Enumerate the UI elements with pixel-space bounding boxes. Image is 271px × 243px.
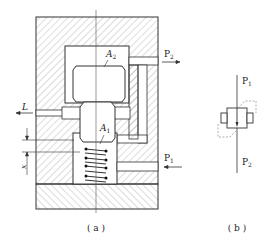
inlet-passage-p1 xyxy=(117,162,158,171)
outlet-passage-p2 xyxy=(129,57,158,65)
outlet-arrow-p2 xyxy=(162,61,180,64)
panel-a: A2 A1 L x P2 P1 ( a ) xyxy=(16,10,182,233)
valve-diagram: A2 A1 L x P2 P1 ( a ) P1 P2 ( b ) xyxy=(0,0,271,243)
label-p2-outlet: P2 xyxy=(164,49,174,60)
left-spring-box xyxy=(221,113,227,123)
inner-wall xyxy=(129,65,138,139)
label-x: x xyxy=(19,164,28,169)
right-pilot-box xyxy=(247,113,253,123)
panel-b: P1 P2 ( b ) xyxy=(218,75,256,233)
label-p1-inlet: P1 xyxy=(164,153,174,164)
caption-b: ( b ) xyxy=(228,223,247,233)
drain-passage-l xyxy=(36,110,64,116)
feedback-passage xyxy=(138,65,147,143)
label-p1-symbol: P1 xyxy=(242,76,252,87)
caption-a: ( a ) xyxy=(87,223,105,233)
end-cap xyxy=(36,184,158,209)
label-l: L xyxy=(21,102,28,112)
lower-spool xyxy=(80,102,115,142)
label-p2-symbol: P2 xyxy=(242,157,252,168)
upper-piston xyxy=(73,66,125,102)
inlet-arrow-p1 xyxy=(164,166,182,169)
